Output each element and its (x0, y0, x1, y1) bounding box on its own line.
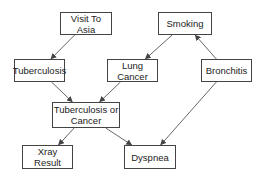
node-lung-cancer[interactable]: Lung Cancer (107, 59, 158, 82)
node-xray-result[interactable]: Xray Result (22, 145, 73, 169)
edge-asia-to-tub (51, 35, 75, 59)
edge-either-to-xray (59, 128, 75, 145)
node-label-line1: Tuberculosis or (54, 104, 119, 115)
node-label: Bronchitis (206, 65, 248, 76)
edge-bronc-to-dysp (161, 82, 217, 145)
node-label: Tuberculosis (13, 65, 67, 76)
edge-lung-to-either (100, 82, 121, 102)
node-label: Lung Cancer (108, 60, 157, 82)
node-label: Smoking (167, 18, 204, 29)
node-label-line2: Cancer (71, 115, 102, 126)
edge-smoking-to-lung (145, 35, 172, 59)
edge-tub-to-either (52, 82, 73, 102)
node-label: Dyspnea (131, 152, 169, 163)
node-smoking[interactable]: Smoking (158, 12, 212, 35)
node-bronchitis[interactable]: Bronchitis (201, 59, 252, 82)
node-label: Visit To Asia (61, 13, 111, 35)
node-tuberculosis-or-cancer[interactable]: Tuberculosis or Cancer (52, 102, 120, 128)
node-label: Xray Result (23, 146, 72, 168)
edge-either-to-dysp (106, 128, 132, 145)
node-tuberculosis[interactable]: Tuberculosis (14, 59, 65, 82)
edge-bronc-to-smoking (195, 35, 216, 59)
node-visit-to-asia[interactable]: Visit To Asia (60, 12, 112, 35)
node-dyspnea[interactable]: Dyspnea (124, 145, 176, 169)
edges-layer (51, 35, 216, 145)
